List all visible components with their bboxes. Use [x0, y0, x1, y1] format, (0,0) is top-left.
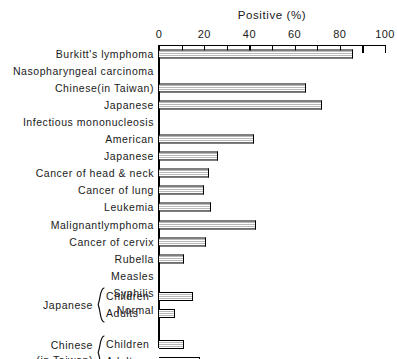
bar-container: [159, 135, 254, 144]
bar-row: Burkitt's lymphoma: [0, 45, 397, 62]
bar-row-label: Measles: [111, 270, 154, 282]
bar: [159, 292, 193, 301]
group-name-line: (in Taiwan): [36, 353, 93, 359]
bar: [159, 83, 306, 92]
bar-row: Infectious mononucleosis: [0, 113, 397, 130]
bar-row: Measles: [0, 267, 397, 284]
bar: [159, 169, 209, 178]
bar-container: [159, 203, 211, 212]
bar-container: [159, 152, 218, 161]
bar: [159, 49, 353, 58]
bar: [159, 220, 256, 229]
bar-container: [159, 186, 204, 195]
bar-row: Chinese(in Taiwan): [0, 79, 397, 96]
bar-row-label: Leukemia: [104, 201, 154, 213]
bar-container: [159, 237, 206, 246]
bar-row: Japanese: [0, 96, 397, 113]
bar: [159, 237, 206, 246]
bar-row: Japanese: [0, 148, 397, 165]
bar-container: [159, 340, 184, 349]
curly-brace-icon: [96, 335, 105, 359]
bar: [159, 340, 184, 349]
bar: [159, 100, 322, 109]
bar-row-label: Nasopharyngeal carcinoma: [13, 65, 154, 77]
group-sub-label: Adults: [106, 307, 138, 319]
bar-container: [159, 309, 175, 318]
bar-row: Cancer of head & neck: [0, 165, 397, 182]
x-axis-tick-labels: 020406080100: [0, 28, 397, 42]
bar-row-label: Cancer of cervix: [69, 236, 154, 248]
bar-row: Malignantlymphoma: [0, 216, 397, 233]
bar-row: American: [0, 131, 397, 148]
bar: [159, 254, 184, 263]
bar-container: [159, 292, 193, 301]
group-name-line: Japanese: [43, 298, 93, 313]
bar-row-label: Malignantlymphoma: [51, 219, 154, 231]
bar-container: [159, 49, 353, 58]
bar-container: [159, 220, 256, 229]
bar-row-label: Cancer of lung: [78, 184, 154, 196]
bar-row-group: Chinese(in Taiwan)ChildrenAdults: [0, 333, 397, 359]
bar-container: [159, 169, 209, 178]
curly-brace-icon: [96, 287, 105, 323]
bar-chart: Positive (%) 020406080100 Burkitt's lymp…: [0, 0, 397, 359]
bar: [159, 309, 175, 318]
bar-row: Rubella: [0, 250, 397, 267]
bar: [159, 152, 218, 161]
x-axis-tick-label: 60: [288, 28, 301, 40]
bar-row-label: Japanese: [104, 150, 154, 162]
x-axis-tick-label: 20: [198, 28, 211, 40]
x-axis-tick-label: 40: [243, 28, 256, 40]
x-axis-tick-label: 0: [156, 28, 163, 40]
bar-row: Cancer of lung: [0, 182, 397, 199]
bar-row-label: American: [105, 133, 154, 145]
bar-row: Leukemia: [0, 199, 397, 216]
x-axis-tick-label: 80: [333, 28, 346, 40]
bar: [159, 135, 254, 144]
bar-row-label: Rubella: [115, 253, 154, 265]
group-sub-label: Adults: [106, 355, 138, 359]
chart-title: Positive (%): [159, 9, 385, 21]
bar-container: [159, 83, 306, 92]
bar-row: Nasopharyngeal carcinoma: [0, 62, 397, 79]
group-name: Chinese(in Taiwan): [36, 338, 93, 359]
bar-row-label: Japanese: [104, 99, 154, 111]
group-name-line: Chinese: [36, 338, 93, 353]
bar: [159, 203, 211, 212]
bar-container: [159, 254, 184, 263]
bar-row-label: Chinese(in Taiwan): [55, 82, 154, 94]
group-sub-label: Children: [106, 338, 150, 350]
bar-row-label: Burkitt's lymphoma: [56, 48, 154, 60]
bar-row: Cancer of cervix: [0, 233, 397, 250]
bar-row-label: Infectious mononucleosis: [23, 116, 154, 128]
bar: [159, 186, 204, 195]
x-axis-tick-label: 100: [375, 28, 395, 40]
bar-container: [159, 100, 322, 109]
bar-row-label: Cancer of head & neck: [36, 167, 154, 179]
group-name: Japanese: [43, 298, 93, 313]
bar-row-group: JapaneseChildrenAdults: [0, 285, 397, 325]
group-sub-label: Children: [106, 290, 150, 302]
